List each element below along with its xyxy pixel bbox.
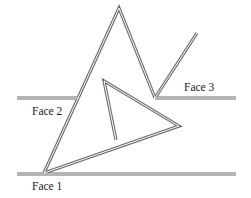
face-1-label: Face 1 bbox=[32, 180, 63, 192]
crack-faces-diagram: Face 1 Face 2 Face 3 bbox=[0, 0, 251, 198]
face-3-label: Face 3 bbox=[184, 81, 215, 93]
face-2-label: Face 2 bbox=[32, 105, 63, 117]
outer-triangle bbox=[44, 8, 155, 173]
